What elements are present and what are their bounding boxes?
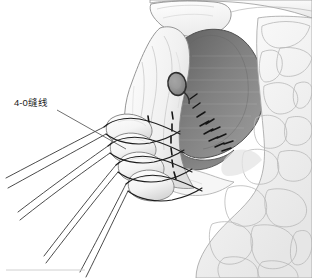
illustration-canvas: 4-0缝线 (0, 0, 312, 278)
surgical-illustration-figure: 4-0缝线 (0, 0, 312, 278)
suture-label: 4-0缝线 (14, 97, 48, 108)
